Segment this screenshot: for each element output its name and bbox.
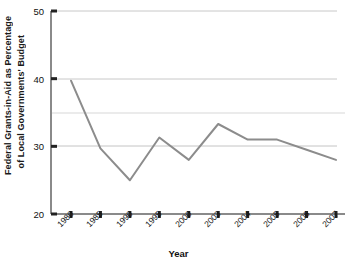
chart-container: Federal Grants-in-Aid as Percentage of L… [0, 0, 357, 265]
gridlines [51, 11, 345, 146]
data-series-line [71, 81, 336, 181]
plot-svg [0, 0, 357, 265]
x-axis-title: Year [0, 248, 357, 259]
